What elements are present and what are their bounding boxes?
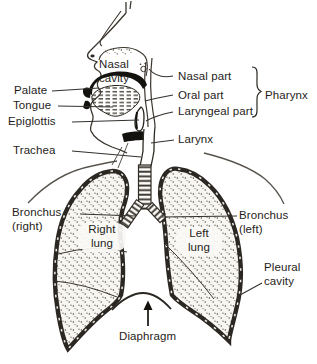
label-bronchus-right: Bronchus (right)	[12, 206, 74, 234]
mouth-floor-shape	[83, 101, 90, 109]
label-nasal-part: Nasal part	[178, 70, 231, 84]
label-bronchus-left: Bronchus (left)	[239, 209, 305, 237]
label-pleural-cavity: Pleural cavity	[264, 261, 312, 289]
label-tongue: Tongue	[13, 99, 51, 113]
pharynx-brace	[252, 67, 261, 117]
right-lung-shape	[55, 171, 127, 349]
leader-pleural-cavity	[240, 283, 262, 295]
label-larynx: Larynx	[178, 133, 213, 147]
pharynx-wall	[145, 62, 148, 127]
left-lung-shape	[160, 169, 241, 341]
leader-oral-part	[145, 95, 173, 101]
label-pharynx: Pharynx	[265, 89, 308, 103]
label-oral-part: Oral part	[178, 89, 224, 103]
nose-inner-line	[100, 11, 121, 46]
label-diaphragm: Diaphragm	[119, 330, 176, 344]
diaphragm-arrow-icon	[144, 301, 153, 327]
larynx-shape	[143, 127, 155, 151]
leader-trachea	[72, 151, 141, 157]
label-nasal-cavity: Nasal cavity	[90, 58, 138, 86]
label-right-lung: Right lung	[78, 223, 126, 251]
vocal-fold-shape	[122, 131, 144, 142]
label-palate: Palate	[14, 84, 47, 98]
body-outline	[28, 143, 284, 204]
nasal-cavity-stipple	[105, 47, 135, 55]
leader-laryngeal-part	[146, 112, 173, 121]
label-left-lung: Left lung	[176, 227, 222, 255]
nostril	[90, 55, 94, 58]
leader-nasal-part	[149, 69, 173, 77]
label-laryngeal-part: Laryngeal part	[178, 105, 253, 119]
label-trachea: Trachea	[13, 144, 55, 158]
leader-epiglottis	[72, 120, 139, 122]
label-epiglottis: Epiglottis	[8, 115, 56, 129]
anatomy-illustration	[0, 0, 317, 364]
tongue-shape	[92, 85, 140, 116]
trachea-shape	[139, 151, 155, 209]
respiratory-system-diagram: Nasal cavity Palate Tongue Epiglottis Tr…	[0, 0, 317, 364]
